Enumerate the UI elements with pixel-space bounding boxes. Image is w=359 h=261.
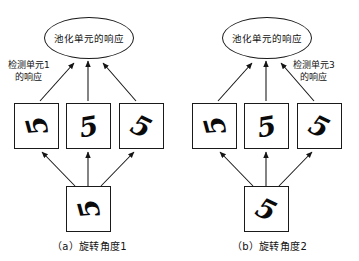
- panel-rotation-angle-2: 池化单元的响应 检测单元3 的响应 5 5 5 5 （b）旋转角度2: [180, 0, 359, 261]
- pooling-unit-ellipse: 池化单元的响应: [222, 17, 312, 59]
- digit-glyph: 5: [297, 103, 342, 149]
- panel-caption: （b）旋转角度2: [180, 238, 359, 253]
- input-image-box: 5: [244, 186, 289, 232]
- digit-glyph: 5: [66, 103, 111, 149]
- detector-box-1: 5: [14, 103, 59, 149]
- detector-box-2: 5: [244, 103, 289, 149]
- digit-glyph: 5: [66, 186, 111, 232]
- panel-rotation-angle-1: 池化单元的响应 检测单元1 的响应 5 5 5 5 （a）旋转角度1: [0, 0, 179, 261]
- detector-box-2: 5: [66, 103, 111, 149]
- digit-glyph: 5: [192, 103, 237, 149]
- pooling-unit-label: 池化单元的响应: [44, 17, 134, 59]
- detector-unit-annotation-line1: 检测单元1: [8, 59, 50, 71]
- pooling-unit-ellipse: 池化单元的响应: [44, 17, 134, 59]
- panel-caption: （a）旋转角度1: [0, 238, 179, 253]
- digit-glyph: 5: [119, 103, 164, 149]
- input-image-box: 5: [66, 186, 111, 232]
- detector-unit-annotation-line2: 的响应: [8, 71, 50, 83]
- detector-box-1: 5: [192, 103, 237, 149]
- digit-glyph: 5: [244, 186, 289, 232]
- digit-glyph: 5: [244, 103, 289, 149]
- rotation-invariance-figure: 池化单元的响应 检测单元1 的响应 5 5 5 5 （a）旋转角度1: [0, 0, 359, 261]
- detector-box-3: 5: [297, 103, 342, 149]
- detector-unit-annotation: 检测单元3 的响应: [293, 59, 335, 83]
- pooling-unit-label: 池化单元的响应: [222, 17, 312, 59]
- detector-unit-annotation: 检测单元1 的响应: [8, 59, 50, 83]
- detector-box-3: 5: [119, 103, 164, 149]
- detector-unit-annotation-line1: 检测单元3: [293, 59, 335, 71]
- digit-glyph: 5: [14, 103, 59, 149]
- detector-unit-annotation-line2: 的响应: [293, 71, 335, 83]
